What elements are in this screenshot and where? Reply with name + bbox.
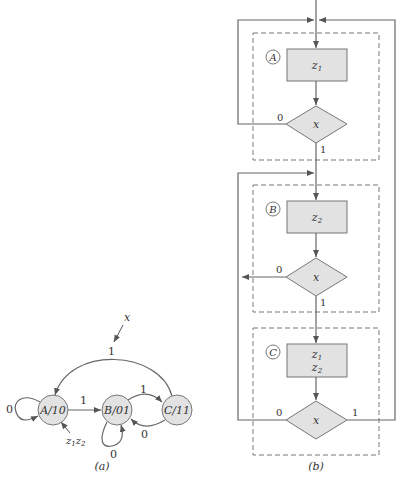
state-a: A/10 bbox=[38, 395, 68, 425]
transition-a-b-label: 1 bbox=[80, 394, 87, 407]
caption-a: (a) bbox=[94, 460, 109, 473]
decision-a-branch-1: 1 bbox=[320, 144, 326, 155]
state-a-label: A/10 bbox=[39, 404, 66, 417]
transition-a-a bbox=[15, 398, 40, 420]
state-c: C/11 bbox=[162, 395, 192, 425]
state-c-name: C bbox=[269, 347, 277, 358]
state-b-name: B bbox=[268, 204, 276, 215]
transition-c-b bbox=[131, 419, 165, 426]
decision-c-label: x bbox=[313, 414, 320, 427]
state-a-name: A bbox=[268, 52, 276, 63]
decision-b-label: x bbox=[313, 271, 320, 284]
decision-b-branch-1: 1 bbox=[320, 297, 326, 308]
figure-canvas: x 1 0 1 0 1 0 A/10 B/01 C/11 bbox=[0, 0, 408, 490]
decision-c-branch-1: 1 bbox=[352, 407, 358, 418]
transition-c-a bbox=[55, 359, 172, 396]
transition-b-c-label: 1 bbox=[140, 383, 147, 396]
output-z1z2-label: z1z2 bbox=[65, 435, 86, 448]
asm-block-a: A z1 x 0 1 bbox=[253, 33, 379, 160]
asm-chart: A z1 x 0 1 B z2 x 0 1 C bbox=[238, 0, 395, 473]
state-c-label: C/11 bbox=[164, 404, 190, 417]
decision-b-branch-0: 0 bbox=[276, 264, 282, 275]
state-b-label: B/01 bbox=[103, 404, 130, 417]
caption-b: (b) bbox=[308, 460, 324, 473]
decision-a-branch-0: 0 bbox=[277, 112, 283, 123]
output-arrow bbox=[61, 422, 70, 433]
asm-block-c: C z1 z2 x 0 1 bbox=[253, 328, 379, 455]
transition-b-b-label: 0 bbox=[110, 448, 117, 461]
asm-block-b: B z2 x 0 1 bbox=[253, 185, 379, 312]
transition-c-b-label: 0 bbox=[141, 428, 148, 441]
transition-b-b bbox=[102, 422, 122, 446]
input-arrow bbox=[114, 325, 123, 342]
state-b: B/01 bbox=[102, 395, 132, 425]
transition-a-a-label: 0 bbox=[6, 403, 13, 416]
state-diagram: x 1 0 1 0 1 0 A/10 B/01 C/11 bbox=[6, 311, 192, 473]
input-x-label: x bbox=[124, 311, 131, 324]
decision-a-label: x bbox=[313, 118, 320, 131]
decision-c-branch-0: 0 bbox=[276, 407, 282, 418]
transition-c-a-label: 1 bbox=[108, 345, 115, 358]
